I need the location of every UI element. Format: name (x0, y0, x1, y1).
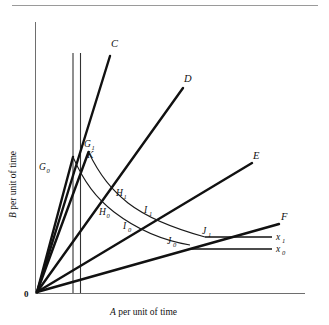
label-x0-sub: 0 (282, 249, 286, 256)
label-I1-letter: I (143, 205, 148, 215)
label-x1-sub: 1 (282, 237, 285, 244)
isoquant-curve-x0 (73, 157, 190, 245)
y-axis-title: B per unit of time (8, 151, 18, 218)
x-axis-title: A per unit of time (109, 307, 177, 317)
label-x0: x 0 (275, 244, 286, 256)
x-axis-title-rest: per unit of time (116, 307, 177, 317)
y-axis-title-rest: per unit of time (8, 151, 18, 212)
label-C: C (111, 38, 119, 49)
label-I0-sub: 0 (128, 226, 132, 233)
label-I0-letter: I (122, 221, 127, 231)
origin-label: 0 (24, 289, 29, 299)
label-H0: H 0 (98, 207, 111, 219)
label-I1-sub: 1 (149, 210, 152, 217)
label-G0-sub: 0 (47, 167, 51, 174)
figure-container: C D E F G 0 G 1 K H 1 H 0 I 1 I 0 (0, 0, 329, 325)
ray-through-G0 (37, 157, 73, 292)
label-x1-letter: x (275, 232, 281, 242)
label-D: D (183, 73, 192, 84)
label-x0-letter: x (275, 244, 281, 254)
label-J1-sub: 1 (208, 231, 211, 238)
label-H0-sub: 0 (107, 212, 111, 219)
ray-D (37, 88, 183, 292)
label-F: F (280, 211, 288, 222)
label-H1: H 1 (115, 188, 127, 200)
label-H1-sub: 1 (124, 193, 127, 200)
label-J1-letter: J (202, 226, 207, 236)
label-J0: J 0 (167, 236, 177, 248)
label-G0: G 0 (39, 162, 51, 174)
label-G0-letter: G (39, 162, 46, 172)
economics-isoquant-diagram: C D E F G 0 G 1 K H 1 H 0 I 1 I 0 (0, 0, 329, 325)
ray-E (37, 163, 252, 292)
label-K: K (86, 150, 94, 160)
label-x1: x 1 (275, 232, 285, 244)
label-G1-letter: G (84, 139, 91, 149)
label-E: E (252, 150, 260, 161)
